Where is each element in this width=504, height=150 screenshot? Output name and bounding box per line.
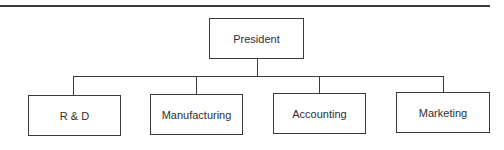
node-manufacturing: Manufacturing — [150, 94, 243, 135]
connector-president-down — [257, 58, 258, 77]
top-rule — [0, 5, 490, 7]
node-label: Manufacturing — [162, 109, 232, 121]
node-label: President — [233, 33, 279, 45]
node-rd: R & D — [28, 95, 121, 136]
connector-marketing — [443, 76, 444, 93]
connector-accounting — [319, 76, 320, 94]
node-label: Marketing — [419, 107, 467, 119]
node-president: President — [209, 18, 304, 59]
connector-rd — [73, 76, 74, 96]
node-marketing: Marketing — [396, 92, 490, 133]
node-accounting: Accounting — [273, 93, 366, 134]
node-label: R & D — [60, 110, 89, 122]
node-label: Accounting — [292, 108, 346, 120]
connector-horizontal-bus — [73, 76, 444, 77]
connector-manufacturing — [196, 76, 197, 95]
